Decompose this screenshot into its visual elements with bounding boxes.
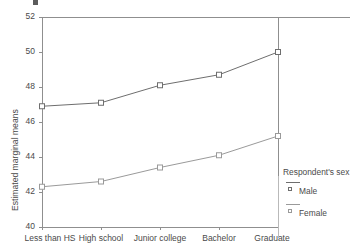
legend-item-male[interactable]: Male xyxy=(283,180,350,202)
legend-label-female: Female xyxy=(299,208,327,218)
y-tick-label: 50 xyxy=(13,46,35,56)
legend-divider xyxy=(278,176,279,238)
x-tick-label: Bachelor xyxy=(202,233,236,243)
x-tick-label: Graduate xyxy=(254,233,289,243)
legend-label-male: Male xyxy=(299,186,317,196)
legend-title: Respondent's sex xyxy=(283,167,350,177)
y-axis-title: Estimated marginal means xyxy=(10,109,20,211)
chart-container: 52504846444240 Less than HSHigh schoolJu… xyxy=(0,0,350,251)
legend-line-male xyxy=(286,182,300,183)
x-tick-label: High school xyxy=(79,233,123,243)
legend-marker-female xyxy=(288,209,292,213)
x-tick-label: Less than HS xyxy=(24,233,75,243)
y-tick-label: 52 xyxy=(13,11,35,21)
legend-line-female xyxy=(286,204,300,205)
legend-item-female[interactable]: Female xyxy=(283,202,350,224)
y-tick-label: 40 xyxy=(13,221,35,231)
y-tick-label: 48 xyxy=(13,81,35,91)
chart-legend: Respondent's sex Male Female xyxy=(283,167,350,224)
legend-marker-male xyxy=(288,187,292,191)
x-tick-label: Junior college xyxy=(134,233,186,243)
